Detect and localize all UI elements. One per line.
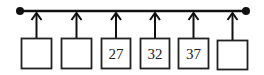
array-cell-4: 37 [179, 13, 209, 69]
array-cell-3: 32 [141, 13, 170, 69]
cell-value: 27 [109, 46, 125, 62]
pointer-diagram: 27 32 37 [0, 0, 264, 75]
array-cell-2: 27 [102, 13, 131, 69]
left-endpoint-dot [16, 7, 24, 15]
right-endpoint-dot [242, 7, 250, 15]
cell-box [62, 39, 92, 69]
cell-box [22, 39, 52, 69]
array-cell-0 [22, 13, 52, 69]
array-cell-5 [218, 13, 248, 70]
cell-value: 37 [186, 46, 202, 62]
array-cell-1 [62, 13, 92, 69]
cell-value: 32 [148, 46, 163, 62]
cell-box [218, 41, 248, 70]
